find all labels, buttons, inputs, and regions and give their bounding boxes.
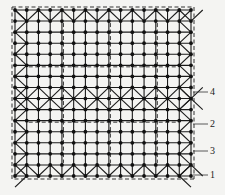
grid-node [37,108,41,112]
callout-label-1: 1 [210,170,215,180]
grid-node [119,8,123,12]
grid-node [84,108,88,112]
grid-node [60,163,64,167]
grid-node [154,174,158,178]
grid-node [95,19,99,23]
grid-node [130,52,134,56]
grid-node [119,108,123,112]
grid-node [13,63,17,67]
grid-node [13,8,17,12]
member-line [144,165,156,176]
grid-node [107,141,111,145]
grid-node [13,130,17,134]
grid-structure-diagram [0,0,225,195]
grid-node [119,141,123,145]
member-line [144,10,156,21]
member-line [144,87,156,98]
grid-node [166,108,170,112]
member-line [74,99,86,110]
grid-node [48,119,52,123]
member-line [50,10,62,21]
grid-node [95,8,99,12]
grid-node [60,75,64,79]
grid-node [107,174,111,178]
member-line [156,165,168,176]
grid-node [166,8,170,12]
grid-node [119,152,123,156]
grid-node [25,174,29,178]
member-line [179,132,191,143]
grid-node [95,108,99,112]
grid-node [154,130,158,134]
grid-node [95,63,99,67]
grid-node [84,86,88,90]
grid-node [142,130,146,134]
grid-node [130,163,134,167]
grid-node [107,86,111,90]
grid-node [84,97,88,101]
grid-node [177,63,181,67]
grid-node [154,86,158,90]
member-line [121,99,133,110]
grid-node [177,30,181,34]
grid-node [72,152,76,156]
member-line [27,87,39,98]
grid-node [189,8,193,12]
grid-node [177,75,181,79]
grid-node [154,163,158,167]
grid-node [130,108,134,112]
grid-node [72,174,76,178]
grid-node [130,152,134,156]
member-line [38,10,50,21]
grid-node [25,141,29,145]
grid-node [166,119,170,123]
member-line [179,176,191,187]
member-line [179,54,191,65]
grid-node [166,130,170,134]
grid-node [37,141,41,145]
grid-node [37,152,41,156]
member-line [15,43,27,54]
grid-node [107,108,111,112]
member-line [85,165,97,176]
grid-node [84,141,88,145]
grid-node [72,97,76,101]
grid-node [154,152,158,156]
grid-node [37,8,41,12]
grid-node [177,152,181,156]
member-line [179,87,191,98]
grid-node [37,119,41,123]
grid-node [154,30,158,34]
grid-node [107,41,111,45]
grid-node [72,30,76,34]
grid-node [37,19,41,23]
grid-node [130,19,134,23]
grid-node [37,41,41,45]
grid-node [37,130,41,134]
callout-label-4: 4 [210,87,215,97]
grid-node [60,41,64,45]
grid-node [72,63,76,67]
grid-node [119,63,123,67]
grid-node [60,108,64,112]
grid-node [142,41,146,45]
grid-node [177,52,181,56]
member-line [15,21,27,32]
grid-node [166,163,170,167]
callout-label-2: 2 [210,119,215,129]
grid-node [84,41,88,45]
grid-node [166,97,170,101]
grid-node [13,163,17,167]
grid-node [154,141,158,145]
grid-node [177,86,181,90]
member-line [15,110,27,121]
grid-node [107,63,111,67]
grid-node [48,108,52,112]
grid-node [107,52,111,56]
member-line [85,10,97,21]
grid-node [166,141,170,145]
grid-node [37,30,41,34]
member-line [50,99,62,110]
grid-node [84,163,88,167]
grid-node [13,52,17,56]
